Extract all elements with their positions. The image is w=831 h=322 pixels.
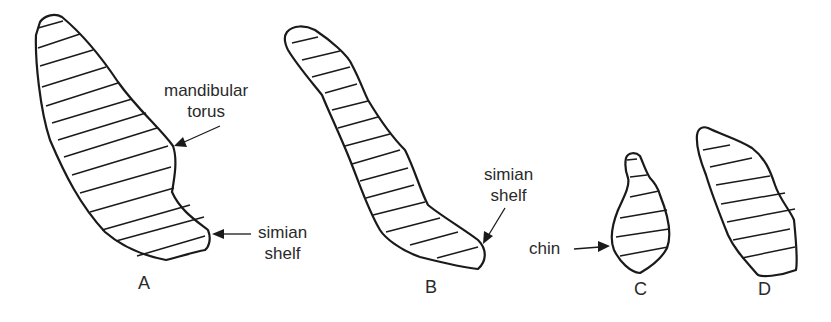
arrow-simian-shelf-b — [483, 208, 505, 244]
arrow-simian-shelf-a — [212, 229, 251, 239]
section-c — [612, 153, 669, 273]
mandible-cross-sections-diagram — [0, 0, 831, 322]
section-a — [36, 15, 210, 260]
label-line-torus: torus — [164, 101, 248, 122]
label-simian-shelf-a: simian shelf — [258, 222, 307, 264]
section-d — [697, 127, 797, 276]
arrow-chin — [574, 241, 610, 252]
section-b — [285, 26, 485, 269]
label-mandibular-torus: mandibular torus — [164, 80, 248, 122]
panel-label-b: B — [425, 277, 437, 298]
label-line-shelf: shelf — [258, 243, 307, 264]
label-line-simian: simian — [258, 222, 307, 243]
label-line-mandibular: mandibular — [164, 80, 248, 101]
arrow-mandibular-torus — [174, 126, 220, 147]
label-simian-shelf-b: simian shelf — [484, 164, 533, 206]
label-line-simian: simian — [484, 164, 533, 185]
panel-label-a: A — [138, 273, 150, 294]
label-line-shelf: shelf — [484, 185, 533, 206]
panel-label-c: C — [634, 279, 647, 300]
panel-label-d: D — [758, 279, 771, 300]
label-chin: chin — [529, 238, 560, 259]
